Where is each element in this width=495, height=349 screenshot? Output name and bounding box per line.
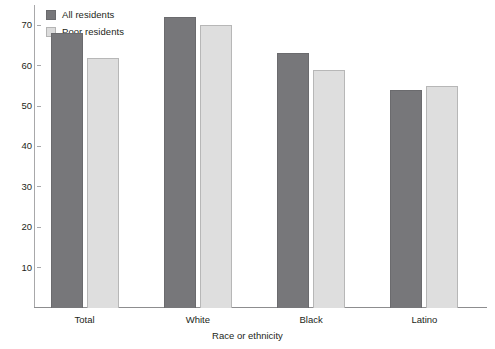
bars-layer [34,5,487,308]
x-axis-label-total: Total [75,313,95,327]
bar-latino-all-residents [390,90,422,308]
bar-white-all-residents [164,17,196,308]
y-axis-tick-label: 30 [21,181,32,193]
plot-area: 10203040506070 [34,5,487,308]
y-axis-tick-label: 20 [21,221,32,233]
bar-black-poor-residents [313,70,345,308]
x-axis-title: Race or ethnicity [0,330,495,341]
bar-total-all-residents [51,33,83,308]
bar-latino-poor-residents [426,86,458,308]
y-axis-tick-label: 40 [21,140,32,152]
bar-chart: All residents Poor residents 10203040506… [0,0,495,349]
x-axis-label-latino: Latino [411,313,437,327]
x-axis-label-black: Black [300,313,323,327]
y-axis-tick-label: 70 [21,19,32,31]
bar-white-poor-residents [200,25,232,308]
bar-total-poor-residents [87,58,119,308]
x-axis-label-white: White [186,313,210,327]
y-axis-tick-label: 50 [21,100,32,112]
y-axis-tick-label: 10 [21,262,32,274]
bar-black-all-residents [277,53,309,308]
x-axis-labels: TotalWhiteBlackLatino [34,313,487,327]
y-axis-tick-label: 60 [21,60,32,72]
